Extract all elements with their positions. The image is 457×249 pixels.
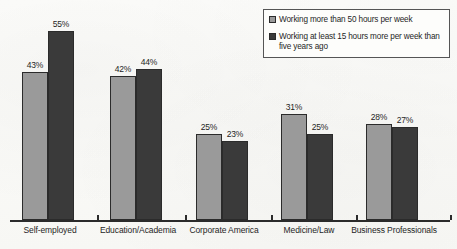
bar-column: 42%: [110, 14, 136, 220]
bar[interactable]: [392, 127, 418, 220]
axis-tick: [97, 215, 99, 220]
bar[interactable]: [110, 76, 136, 220]
bar[interactable]: [281, 114, 307, 220]
bar[interactable]: [48, 31, 74, 220]
bar-value-label: 25%: [312, 122, 328, 132]
legend-label-series-1: Working at least 15 hours more per week …: [279, 32, 444, 52]
category-label: Self-employed: [23, 225, 76, 235]
legend-item-series-1: Working at least 15 hours more per week …: [269, 32, 444, 52]
bar[interactable]: [22, 72, 48, 220]
axis-tick: [450, 215, 452, 220]
bar-column: 25%: [196, 14, 222, 220]
chart-legend: Working more than 50 hours per week Work…: [263, 9, 450, 58]
axis-tick: [185, 215, 187, 220]
category-label: Corporate America: [189, 225, 258, 235]
axis-tick: [356, 215, 358, 220]
bar[interactable]: [307, 134, 333, 220]
bar-column: 55%: [48, 14, 74, 220]
legend-swatch-icon-series-0: [269, 16, 276, 23]
bar-value-label: 44%: [141, 57, 157, 67]
bar[interactable]: [222, 141, 248, 220]
bar[interactable]: [136, 69, 162, 220]
bar-value-label: 25%: [201, 122, 217, 132]
legend-label-series-0: Working more than 50 hours per week: [279, 15, 412, 25]
bar-value-label: 28%: [371, 112, 387, 122]
bar-column: 44%: [136, 14, 162, 220]
axis-tick: [271, 215, 273, 220]
x-axis-line: [10, 220, 450, 222]
bar-value-label: 43%: [27, 60, 43, 70]
chart-page: 43%55%42%44%25%23%31%25%28%27% Self-empl…: [0, 0, 457, 249]
bar-value-label: 42%: [115, 64, 131, 74]
bar[interactable]: [196, 134, 222, 220]
bar-value-label: 27%: [397, 115, 413, 125]
legend-swatch-icon-series-1: [269, 33, 276, 40]
bar-value-label: 23%: [227, 129, 243, 139]
bar-value-label: 31%: [286, 102, 302, 112]
category-label: Medicine/Law: [284, 225, 335, 235]
bar-column: 23%: [222, 14, 248, 220]
bar[interactable]: [366, 124, 392, 220]
category-label: Education/Academia: [100, 225, 176, 235]
bar-value-label: 55%: [53, 19, 69, 29]
bar-column: 43%: [22, 14, 48, 220]
category-label: Business Professionals: [351, 225, 437, 235]
legend-item-series-0: Working more than 50 hours per week: [269, 15, 444, 25]
